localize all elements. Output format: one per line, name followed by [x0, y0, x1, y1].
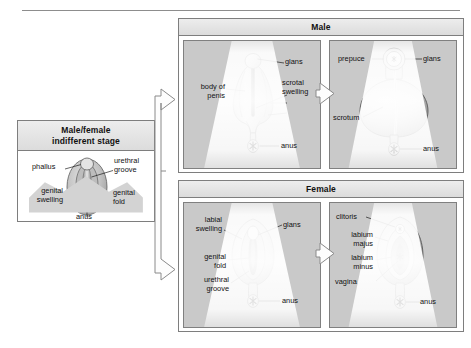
female-header-label: Female	[306, 184, 336, 194]
label-labium-majus-line2: majus	[353, 239, 373, 248]
label-scrotal-swelling-line2: swelling	[282, 87, 308, 96]
female-header: Female	[179, 181, 463, 198]
subpanel-male-early: glans body of penis scrotal swelling anu…	[183, 40, 321, 169]
label-labial-swelling-line1: labial	[205, 215, 222, 224]
label-female-genital-fold: genital fold	[186, 252, 226, 270]
subpanel-male-late: prepuce glans scrotum anus	[329, 40, 457, 169]
label-female-urethral-groove: urethral groove	[185, 275, 229, 293]
female-arrow-gap	[321, 202, 329, 328]
label-clitoris: clitoris	[336, 212, 357, 221]
female-group-body: labial swelling glans genital fold ureth…	[179, 198, 463, 332]
label-female-urethral-groove-line1: urethral	[204, 275, 229, 284]
label-female-urethral-groove-line2: groove	[206, 284, 229, 293]
subpanel-female-late: clitoris labium majus labium minus vagin…	[329, 202, 457, 328]
label-female-late-anus: anus	[420, 297, 436, 306]
label-vagina: vagina	[335, 277, 357, 286]
indifferent-stage-title-line2: indifferent stage	[52, 136, 120, 147]
label-labium-minus-line2: minus	[353, 262, 373, 271]
group-female: Female	[178, 180, 464, 332]
subpanel-female-early: labial swelling glans genital fold ureth…	[183, 202, 321, 328]
indifferent-stage-header: Male/female indifferent stage	[18, 121, 154, 151]
label-male-early-anus: anus	[281, 141, 297, 150]
label-genital-fold: genital fold	[113, 188, 135, 206]
label-anus: anus	[76, 212, 92, 221]
label-labial-swelling-line2: swelling	[196, 224, 222, 233]
indifferent-stage-title-line1: Male/female	[61, 125, 110, 136]
group-male: Male	[178, 18, 464, 173]
label-genital-swelling-line2: swelling	[37, 195, 63, 204]
label-scrotal-swelling-line1: scrotal	[282, 78, 304, 87]
indifferent-stage-body: phallus urethral groove genital swelling…	[18, 151, 154, 221]
label-genital-fold-line2: fold	[113, 197, 125, 206]
label-phallus: phallus	[32, 162, 55, 171]
label-female-early-anus: anus	[282, 296, 298, 305]
label-urethral-groove-line2: groove	[114, 165, 137, 174]
label-urethral-groove-line1: urethral	[114, 156, 139, 165]
label-labium-minus: labium minus	[331, 253, 373, 271]
label-labium-majus: labium majus	[331, 230, 373, 248]
label-labium-minus-line1: labium	[351, 253, 373, 262]
label-scrotum: scrotum	[333, 113, 359, 122]
label-labial-swelling: labial swelling	[188, 215, 222, 233]
panel-indifferent-stage: Male/female indifferent stage	[17, 120, 155, 222]
label-labium-majus-line1: labium	[351, 230, 373, 239]
label-genital-swelling-line1: genital	[41, 186, 63, 195]
genitalia-development-figure: Male/female indifferent stage	[0, 0, 471, 348]
label-prepuce: prepuce	[338, 54, 365, 63]
label-male-glans: glans	[285, 57, 303, 66]
male-arrow-gap	[321, 40, 329, 169]
label-male-late-glans: glans	[423, 54, 441, 63]
male-header: Male	[179, 19, 463, 36]
male-group-body: glans body of penis scrotal swelling anu…	[179, 36, 463, 173]
label-urethral-groove: urethral groove	[114, 156, 139, 174]
label-body-of-penis: body of penis	[187, 82, 225, 100]
label-female-genital-fold-line1: genital	[204, 252, 226, 261]
label-female-glans: glans	[283, 220, 301, 229]
label-genital-swelling: genital swelling	[21, 186, 63, 204]
top-divider-rule	[22, 10, 460, 11]
label-body-of-penis-line2: penis	[207, 91, 225, 100]
label-male-late-anus: anus	[423, 144, 439, 153]
label-scrotal-swelling: scrotal swelling	[282, 78, 308, 96]
male-header-label: Male	[311, 22, 330, 32]
label-female-genital-fold-line2: fold	[214, 261, 226, 270]
label-body-of-penis-line1: body of	[201, 82, 225, 91]
label-genital-fold-line1: genital	[113, 188, 135, 197]
